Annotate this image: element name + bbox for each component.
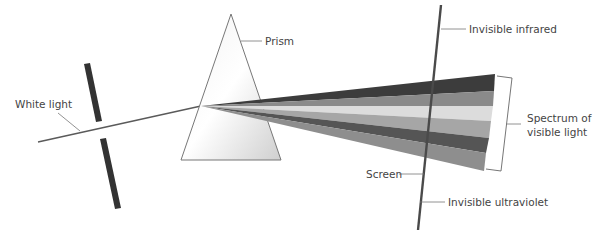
label-spectrum-line2: visible light (527, 126, 587, 138)
slit-barrier-bottom (100, 138, 121, 209)
label-white-light: White light (15, 98, 72, 110)
white-light-ray (38, 106, 201, 142)
prism-diagram: White light Prism Invisible infrared Spe… (0, 0, 593, 238)
white-light-leader (58, 113, 80, 131)
label-invisible-infrared: Invisible infrared (469, 23, 557, 35)
label-invisible-ultraviolet: Invisible ultraviolet (448, 196, 548, 208)
label-spectrum-line1: Spectrum of (527, 112, 592, 124)
label-screen: Screen (366, 168, 402, 180)
slit-barrier-top (84, 63, 102, 122)
label-prism: Prism (265, 35, 294, 47)
